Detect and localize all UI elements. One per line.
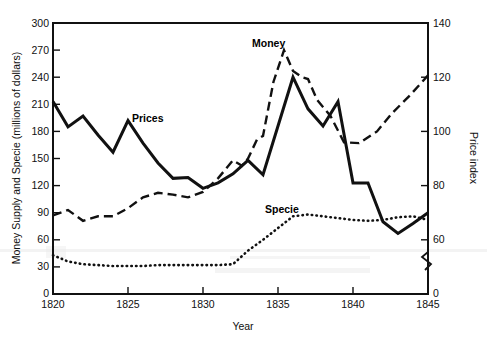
x-axis-title: Year (232, 320, 254, 332)
plot-frame (53, 23, 428, 294)
left-tick-240: 240 (31, 71, 49, 83)
series-label-specie: Specie (265, 203, 299, 215)
x-tick-1830: 1830 (191, 298, 215, 310)
right-tick-60: 60 (433, 233, 445, 245)
x-tick-1840: 1840 (341, 298, 365, 310)
left-tick-60: 60 (37, 233, 49, 245)
left-tick-210: 210 (31, 98, 49, 110)
x-tick-1825: 1825 (116, 298, 140, 310)
chart-figure: 300 270 240 210 180 150 120 90 60 30 0 1… (0, 0, 487, 340)
left-tick-30: 30 (37, 260, 49, 272)
right-axis-tick-labels: 140 120 100 80 60 0 (433, 17, 451, 299)
left-tick-270: 270 (31, 44, 49, 56)
right-axis-ticks (421, 23, 428, 240)
y-axis-title-right: Price index (468, 132, 480, 185)
left-tick-150: 150 (31, 152, 49, 164)
right-tick-80: 80 (433, 179, 445, 191)
scan-artifacts (0, 246, 487, 273)
left-tick-180: 180 (31, 125, 49, 137)
y-axis-title-left: Money Supply and Specie (millions of dol… (10, 52, 22, 264)
right-axis-break-symbol (422, 252, 431, 270)
right-tick-100: 100 (433, 125, 451, 137)
x-axis-ticks (128, 287, 353, 294)
left-axis-ticks (53, 23, 60, 267)
series-label-prices: Prices (132, 112, 164, 124)
x-tick-1845: 1845 (416, 298, 440, 310)
left-tick-120: 120 (31, 179, 49, 191)
x-tick-1820: 1820 (41, 298, 65, 310)
left-tick-90: 90 (37, 206, 49, 218)
right-tick-140: 140 (433, 17, 451, 29)
line-chart: 300 270 240 210 180 150 120 90 60 30 0 1… (0, 0, 487, 340)
series-line-prices (53, 77, 428, 233)
left-tick-300: 300 (31, 17, 49, 29)
right-tick-120: 120 (433, 71, 451, 83)
x-axis-tick-labels: 1820 1825 1830 1835 1840 1845 (41, 298, 440, 310)
x-tick-1835: 1835 (266, 298, 290, 310)
series-label-money: Money (252, 37, 285, 49)
